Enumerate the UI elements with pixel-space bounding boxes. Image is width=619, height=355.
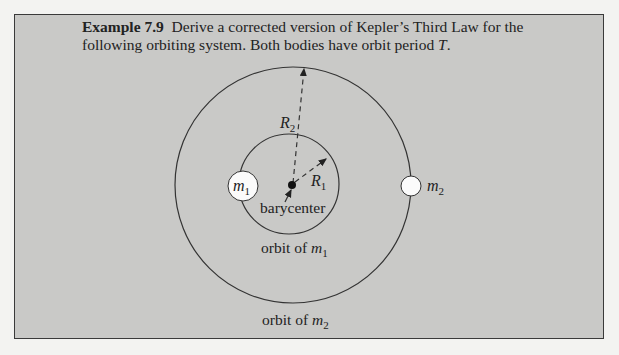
orbit-m2-label: orbit of m2: [262, 311, 329, 331]
m2-label: m2: [427, 177, 444, 197]
m2-body: [401, 176, 421, 196]
r2-label: R2: [279, 114, 295, 134]
r1-label: R1: [310, 172, 326, 192]
orbit-diagram: R2 R1 m1 m2 barycenter orbit of m1 orbit…: [0, 0, 619, 355]
orbit-m1-label: orbit of m1: [261, 239, 328, 259]
barycenter-label: barycenter: [260, 199, 326, 216]
barycenter-dot: [288, 181, 296, 189]
